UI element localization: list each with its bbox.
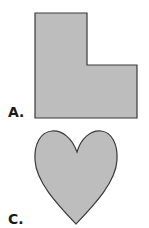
l-shape-figure	[35, 13, 137, 118]
figure-label-c: C.	[8, 212, 24, 226]
heart-figure	[35, 131, 117, 224]
figure-label-a: A.	[8, 105, 24, 119]
